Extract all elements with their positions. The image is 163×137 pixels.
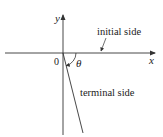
angle-theta-label: θ <box>76 57 82 69</box>
angle-arc <box>66 53 76 66</box>
origin-label: 0 <box>54 56 59 67</box>
x-axis-label: x <box>148 54 154 66</box>
angle-diagram: y x 0 θ initial side terminal side <box>0 0 163 137</box>
initial-side-pointer <box>101 38 106 51</box>
y-axis-label: y <box>54 12 60 24</box>
initial-side-label: initial side <box>97 26 141 37</box>
terminal-side-label: terminal side <box>80 87 135 98</box>
